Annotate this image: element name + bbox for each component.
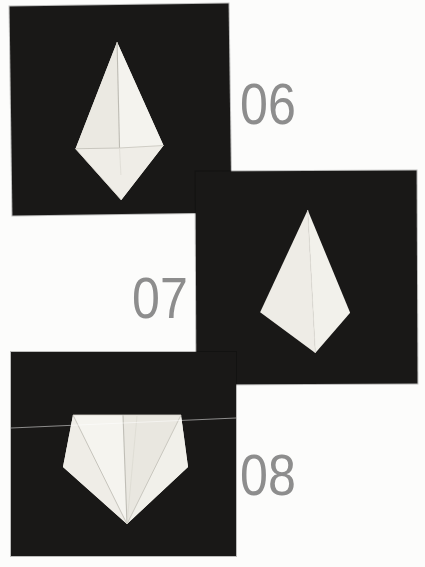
book-page: 06 07 bbox=[0, 0, 425, 567]
origami-model-step-08 bbox=[11, 352, 236, 556]
step-number-06: 06 bbox=[240, 76, 296, 133]
paper-facet-upper-left bbox=[74, 42, 119, 149]
crease-junction-left bbox=[76, 148, 120, 149]
paper-facet-left bbox=[260, 210, 316, 353]
step-number-08: 08 bbox=[240, 447, 296, 504]
paper-facet-upper-right bbox=[117, 41, 163, 148]
step-number-07: 07 bbox=[132, 270, 188, 327]
step-photo-08 bbox=[11, 352, 236, 556]
